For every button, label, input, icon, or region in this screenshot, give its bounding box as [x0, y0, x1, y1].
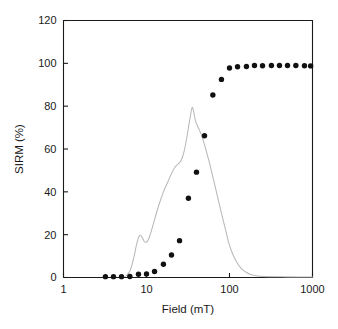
data-point-marker: [119, 274, 124, 279]
data-point-marker: [202, 133, 207, 138]
x-tick-label: 1000: [300, 283, 324, 295]
data-point-marker: [285, 63, 290, 68]
data-point-marker: [144, 271, 149, 276]
data-point-marker: [252, 63, 257, 68]
data-point-marker: [227, 65, 232, 70]
y-tick-label: 40: [44, 186, 56, 198]
data-point-marker: [235, 64, 240, 69]
y-axis-title: SIRM (%): [13, 124, 25, 174]
coercivity-spectrum-curve: [126, 107, 313, 277]
data-point-marker: [177, 238, 182, 243]
plot-frame: [64, 21, 313, 278]
y-tick-label: 20: [44, 229, 56, 241]
data-point-marker: [111, 274, 116, 279]
x-axis-title: Field (mT): [162, 303, 215, 315]
data-point-marker: [103, 274, 108, 279]
data-point-marker: [308, 63, 313, 68]
data-point-marker: [244, 64, 249, 69]
spectrum-line: [126, 107, 313, 277]
data-point-marker: [136, 272, 141, 277]
data-point-marker: [186, 196, 191, 201]
data-point-marker: [169, 252, 174, 257]
data-point-marker: [210, 92, 215, 97]
y-tick-label: 60: [44, 143, 56, 155]
data-point-marker: [161, 262, 166, 267]
data-point-marker: [219, 77, 224, 82]
y-tick-label: 120: [38, 14, 56, 26]
x-axis-ticks: 1101001000: [60, 273, 324, 295]
data-point-marker: [277, 63, 282, 68]
data-point-marker: [293, 63, 298, 68]
y-tick-label: 0: [50, 271, 56, 283]
x-tick-label: 1: [60, 283, 66, 295]
y-tick-label: 100: [38, 57, 56, 69]
data-point-marker: [127, 274, 132, 279]
irm-acquisition-points: [103, 63, 314, 280]
data-point-marker: [302, 63, 307, 68]
data-point-marker: [194, 169, 199, 174]
data-point-marker: [269, 63, 274, 68]
plot-frame-box: [64, 21, 313, 278]
data-point-marker: [152, 269, 157, 274]
chart-canvas: 020406080100120 1101001000 SIRM (%) Fiel…: [0, 0, 338, 329]
y-tick-label: 80: [44, 100, 56, 112]
x-tick-label: 100: [220, 283, 238, 295]
irm-acquisition-figure: 020406080100120 1101001000 SIRM (%) Fiel…: [0, 0, 338, 329]
x-tick-label: 10: [140, 283, 152, 295]
data-point-marker: [260, 63, 265, 68]
